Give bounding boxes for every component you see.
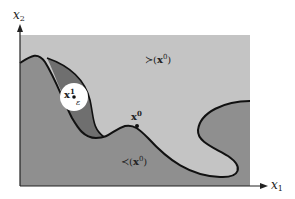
y-axis-label: x2 [13, 9, 25, 23]
x0-point [135, 124, 139, 128]
y-axis-arrow-icon [17, 24, 23, 32]
x0-sup: 0 [137, 109, 142, 118]
upper-region-label: ≻(x0) [145, 54, 171, 65]
lower-region-label: ≺(x0) [121, 156, 147, 167]
x1-sup: 1 [70, 87, 75, 96]
lower-suffix: ) [143, 156, 147, 167]
preference-diagram [0, 0, 295, 199]
x-axis-sub: 1 [278, 184, 283, 193]
y-axis-sub: 2 [20, 14, 25, 23]
x0-label: x0 [131, 110, 142, 122]
x-axis-arrow-icon [260, 183, 268, 189]
epsilon-label: ε [76, 99, 80, 107]
lower-prefix: ≺( [121, 156, 133, 167]
upper-prefix: ≻( [145, 54, 157, 65]
y-axis-var: x [13, 8, 20, 22]
x-axis-label: x1 [271, 179, 283, 193]
x-axis-var: x [271, 178, 278, 192]
x1-label: x1 [64, 88, 75, 100]
upper-suffix: ) [167, 54, 171, 65]
